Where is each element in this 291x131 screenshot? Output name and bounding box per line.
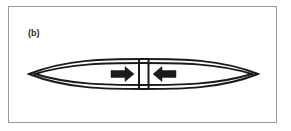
lens-compression-diagram [27,47,260,101]
center-double-line [139,60,149,88]
left-pointing-arrow [153,67,176,82]
right-pointing-arrow [111,67,134,82]
figure-root: (b) [0,0,291,131]
panel-label: (b) [28,28,40,38]
lens-diagram-svg [27,47,260,101]
inner-lens-outline [35,63,252,85]
figure-panel-border: (b) [8,6,277,123]
